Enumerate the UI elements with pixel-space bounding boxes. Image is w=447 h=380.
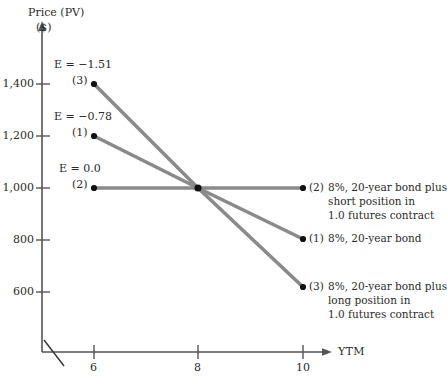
y-tick-label-1400: 1,400	[0, 77, 34, 91]
point-label-series3-left: (3)	[72, 74, 88, 88]
x-axis	[42, 348, 332, 356]
legend-text-2-line2: short position in	[328, 195, 415, 208]
elasticity-label-series1: E = −0.78	[54, 110, 112, 124]
legend-text-3-line3: 1.0 futures contract	[328, 308, 434, 321]
y-tick-label-1000: 1,000	[0, 181, 34, 195]
marker-series2-left	[91, 185, 97, 191]
point-label-series2-left: (2)	[72, 178, 88, 192]
x-tick-label-10: 10	[296, 361, 310, 375]
legend-num-1: (1)	[309, 232, 324, 245]
x-tick-label-6: 6	[90, 361, 97, 375]
marker-series1-right	[300, 236, 306, 242]
marker-series1-left	[91, 133, 97, 139]
legend-text-1-line1: 8%, 20-year bond	[328, 232, 422, 245]
legend-num-3: (3)	[309, 280, 324, 293]
y-axis-title-line2: ($)	[36, 21, 52, 35]
legend-text-3-line2: long position in	[328, 294, 410, 307]
x-tick-label-8: 8	[194, 361, 201, 375]
y-axis	[38, 21, 46, 352]
legend-text-3-line1: 8%, 20-year bond plus	[328, 280, 447, 293]
elasticity-label-series2: E = 0.0	[59, 162, 101, 176]
marker-pivot	[194, 184, 201, 191]
y-tick-label-800: 800	[0, 233, 34, 247]
y-tick-marks	[36, 84, 50, 292]
y-tick-label-1200: 1,200	[0, 129, 34, 143]
y-axis-title-line1: Price (PV)	[28, 6, 84, 20]
marker-series2-right	[300, 185, 306, 191]
legend-text-2-line1: 8%, 20-year bond plus	[328, 181, 447, 194]
marker-series3-right	[300, 284, 306, 290]
legend-num-2: (2)	[309, 181, 324, 194]
point-label-series1-left: (1)	[72, 126, 88, 140]
axis-break-mark	[44, 340, 64, 366]
legend-text-2-line3: 1.0 futures contract	[328, 209, 434, 222]
y-tick-label-600: 600	[0, 285, 34, 299]
x-axis-title: YTM	[338, 345, 365, 359]
elasticity-label-series3: E = −1.51	[54, 58, 112, 72]
marker-series3-left	[91, 81, 97, 87]
